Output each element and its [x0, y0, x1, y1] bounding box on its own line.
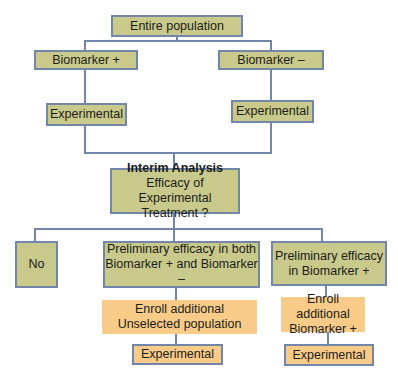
interim-title: Interim Analysis: [127, 161, 223, 176]
enroll-unselected-node: Enroll additional Unselected population: [102, 300, 257, 334]
node-line1: Preliminary efficacy: [275, 249, 383, 264]
experimental-positive-node: Experimental: [46, 103, 127, 126]
biomarker-negative-node: Biomarker –: [218, 50, 324, 70]
interim-line2: Treatment ?: [142, 206, 209, 221]
flowchart: Entire population Biomarker + Biomarker …: [0, 0, 398, 381]
experimental-unselected-node: Experimental: [132, 344, 223, 365]
interim-analysis-node: Interim Analysis Efficacy of Experimenta…: [110, 168, 240, 214]
experimental-positive-final-node: Experimental: [284, 344, 374, 366]
node-line2: in Biomarker +: [289, 264, 370, 279]
node-label: Biomarker –: [237, 53, 304, 68]
node-line1: Enroll additional: [135, 302, 224, 317]
node-line2: Unselected population: [118, 317, 242, 332]
enroll-positive-node: Enroll additional Biomarker +: [281, 297, 365, 332]
preliminary-both-node: Preliminary efficacy in both Biomarker +…: [103, 241, 260, 288]
node-label: Experimental: [236, 104, 309, 119]
node-line2: Biomarker + and Biomarker –: [105, 257, 258, 287]
node-label: Experimental: [141, 347, 214, 362]
node-label: No: [29, 257, 45, 272]
experimental-negative-node: Experimental: [231, 100, 314, 123]
node-line2: Biomarker +: [289, 322, 357, 337]
entire-population-node: Entire population: [111, 15, 243, 37]
node-label: Experimental: [50, 107, 123, 122]
node-line1: Enroll additional: [281, 292, 365, 322]
no-node: No: [15, 241, 58, 288]
interim-line1: Efficacy of Experimental: [112, 176, 238, 206]
node-line1: Preliminary efficacy in both: [107, 242, 256, 257]
node-label: Entire population: [130, 19, 224, 34]
node-label: Experimental: [293, 348, 366, 363]
preliminary-positive-node: Preliminary efficacy in Biomarker +: [271, 241, 387, 286]
node-label: Biomarker +: [52, 53, 120, 68]
biomarker-positive-node: Biomarker +: [34, 50, 138, 70]
